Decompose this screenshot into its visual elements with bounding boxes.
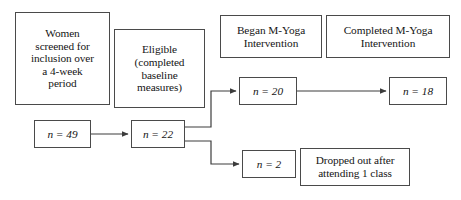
connector-eligible-to-dropped — [185, 141, 239, 164]
box-completed-intervention: Completed M-Yoga Intervention — [326, 15, 450, 58]
box-count-dropped-label: n = 2 — [243, 158, 295, 171]
box-women-screened: Women screened for inclusion over a 4-we… — [15, 12, 110, 105]
box-count-dropped: n = 2 — [242, 150, 296, 178]
flow-diagram: Women screened for inclusion over a 4-we… — [0, 0, 461, 200]
box-count-began: n = 20 — [239, 77, 297, 105]
box-dropped-reason: Dropped out after attending 1 class — [300, 148, 410, 186]
box-eligible: Eligible (completed baseline measures) — [114, 29, 205, 108]
box-count-eligible: n = 22 — [131, 120, 185, 148]
box-eligible-label: Eligible (completed baseline measures) — [115, 43, 204, 94]
box-women-screened-label: Women screened for inclusion over a 4-we… — [16, 27, 109, 90]
box-count-completed: n = 18 — [389, 77, 447, 105]
box-dropped-reason-label: Dropped out after attending 1 class — [301, 154, 409, 179]
box-count-completed-label: n = 18 — [390, 85, 446, 98]
box-count-screened: n = 49 — [34, 120, 91, 148]
box-began-intervention-label: Began M-Yoga Intervention — [221, 24, 321, 49]
box-count-eligible-label: n = 22 — [132, 128, 184, 141]
box-count-began-label: n = 20 — [240, 85, 296, 98]
box-count-screened-label: n = 49 — [35, 128, 90, 141]
box-began-intervention: Began M-Yoga Intervention — [220, 15, 322, 58]
box-completed-intervention-label: Completed M-Yoga Intervention — [327, 24, 449, 49]
